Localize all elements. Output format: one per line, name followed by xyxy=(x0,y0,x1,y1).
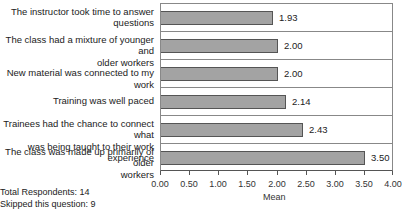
x-tick xyxy=(160,171,161,175)
row-separator xyxy=(161,115,393,116)
x-tick xyxy=(247,171,248,175)
x-tick xyxy=(335,171,336,175)
category-label: The class had a mixture of younger andol… xyxy=(0,34,154,69)
bar xyxy=(161,123,303,137)
x-tick xyxy=(277,171,278,175)
bar xyxy=(161,95,286,109)
bar xyxy=(161,151,365,165)
x-tick-label: 0.50 xyxy=(174,179,204,189)
x-tick xyxy=(218,171,219,175)
total-respondents: Total Respondents: 14 xyxy=(0,187,90,197)
x-tick-label: 3.00 xyxy=(320,179,350,189)
plot-area: 1.932.002.002.142.433.50 xyxy=(160,3,393,171)
bar-value-label: 2.00 xyxy=(284,68,303,80)
category-label: Training was well paced xyxy=(0,95,154,107)
category-label: New material was connected to my work xyxy=(0,67,154,90)
x-tick-label: 2.00 xyxy=(262,179,292,189)
bar xyxy=(161,39,278,53)
bar xyxy=(161,11,273,25)
x-tick xyxy=(306,171,307,175)
row-separator xyxy=(161,31,393,32)
bar-value-label: 2.14 xyxy=(292,96,311,108)
x-tick xyxy=(392,171,393,175)
category-label: The class was made up primarily of older… xyxy=(0,146,154,181)
x-tick-label: 3.50 xyxy=(349,179,379,189)
row-separator xyxy=(161,59,393,60)
x-tick-label: 2.50 xyxy=(291,179,321,189)
bar-value-label: 3.50 xyxy=(371,152,390,164)
bar-value-label: 2.43 xyxy=(309,124,328,136)
x-tick-label: 0.00 xyxy=(145,179,175,189)
skipped-count: Skipped this question: 9 xyxy=(0,199,96,209)
x-tick xyxy=(364,171,365,175)
bar-value-label: 2.00 xyxy=(284,40,303,52)
x-tick-label: 1.50 xyxy=(232,179,262,189)
row-separator xyxy=(161,143,393,144)
bar-value-label: 1.93 xyxy=(279,12,298,24)
x-axis-title: Mean xyxy=(263,192,286,202)
x-tick-label: 4.00 xyxy=(378,179,403,189)
x-tick xyxy=(189,171,190,175)
bar xyxy=(161,67,278,81)
row-separator xyxy=(161,87,393,88)
x-tick-label: 1.00 xyxy=(203,179,233,189)
category-label: The instructor took time to answerquesti… xyxy=(0,6,154,29)
